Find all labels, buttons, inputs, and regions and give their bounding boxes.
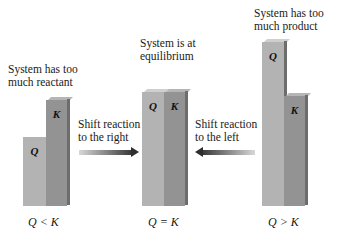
bar-q-center: Q [142, 92, 164, 206]
bar-label-k: K [164, 100, 185, 112]
bar-q-left: Q [23, 137, 46, 206]
caption-line: System has too [254, 7, 324, 20]
bar-k-left: K [46, 100, 67, 206]
caption-equilibrium: System is at equilibrium [140, 37, 196, 63]
bar-label-k: K [46, 108, 67, 120]
bar-side-face [185, 91, 188, 205]
arrow-text-line: Shift reaction [78, 118, 140, 131]
caption-line: System is at [140, 37, 196, 50]
bar-q-right: Q [262, 42, 284, 206]
relation-q-greater-k: Q > K [268, 215, 299, 230]
bar-k-right: K [284, 96, 305, 206]
caption-too-much-reactant: System has too much reactant [8, 63, 78, 89]
arrow-text-line: to the left [195, 131, 257, 144]
caption-line: much product [254, 20, 324, 33]
relation-q-less-k: Q < K [28, 215, 59, 230]
bar-side-face [284, 41, 287, 96]
caption-too-much-product: System has too much product [254, 7, 324, 33]
bar-label-q: Q [23, 145, 46, 157]
arrow-right-icon [79, 150, 139, 155]
bar-label-k: K [284, 104, 305, 116]
bar-side-face [305, 95, 308, 205]
shift-left-text: Shift reaction to the left [195, 118, 257, 144]
bar-side-face [67, 99, 70, 205]
shift-right-text: Shift reaction to the right [78, 118, 140, 144]
relation-q-equals-k: Q = K [148, 215, 179, 230]
caption-line: equilibrium [140, 50, 196, 63]
arrow-text-line: Shift reaction [195, 118, 257, 131]
caption-line: System has too [8, 63, 78, 76]
arrow-left-icon [195, 150, 255, 155]
caption-line: much reactant [8, 76, 78, 89]
arrow-text-line: to the right [78, 131, 140, 144]
bar-k-center: K [164, 92, 185, 206]
bar-label-q: Q [142, 100, 164, 112]
bar-label-q: Q [262, 50, 284, 62]
bar-front [262, 42, 284, 206]
